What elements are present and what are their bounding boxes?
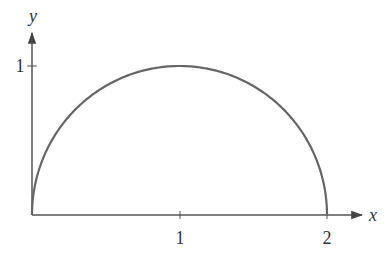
- y-tick-label-1: 1: [16, 56, 25, 76]
- x-tick-label-2: 2: [323, 228, 332, 248]
- y-axis-label: y: [27, 6, 37, 26]
- x-axis-label: x: [368, 205, 377, 225]
- semicircle-curve: [32, 66, 327, 215]
- chart: 1 2 1 x y: [0, 0, 390, 256]
- x-tick-label-1: 1: [176, 228, 185, 248]
